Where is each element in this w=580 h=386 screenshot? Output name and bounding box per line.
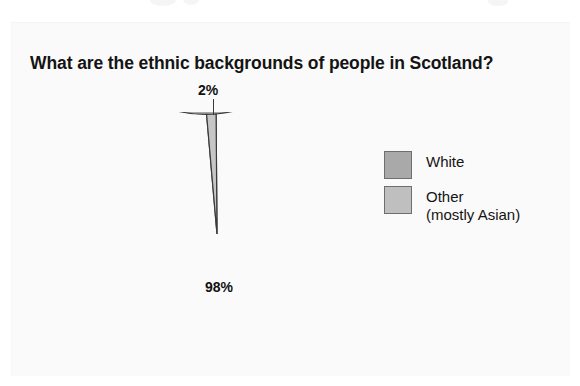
leader-line-other: [213, 99, 214, 115]
scan-artifact: [150, 0, 176, 6]
pie-chart: [96, 112, 338, 356]
pie-label-white: 98%: [205, 279, 233, 295]
legend-label-other: Other: [426, 188, 464, 205]
legend-label-other-group: Other (mostly Asian): [426, 185, 520, 224]
legend-item-white[interactable]: White: [384, 150, 554, 179]
legend-swatch-white: [384, 151, 412, 179]
pie-label-other: 2%: [198, 82, 218, 98]
scan-artifact: [183, 0, 199, 5]
legend-swatch-other: [384, 186, 412, 214]
legend: White Other (mostly Asian): [384, 150, 554, 230]
legend-label-white: White: [426, 150, 464, 171]
pie-chart-svg: [96, 112, 338, 356]
pie-slice-other[interactable]: [207, 114, 217, 234]
scan-artifact: [488, 0, 508, 6]
page-title: What are the ethnic backgrounds of peopl…: [30, 53, 540, 74]
legend-sublabel-other: (mostly Asian): [426, 206, 520, 224]
legend-item-other[interactable]: Other (mostly Asian): [384, 185, 554, 224]
figure-page: What are the ethnic backgrounds of peopl…: [0, 0, 580, 386]
